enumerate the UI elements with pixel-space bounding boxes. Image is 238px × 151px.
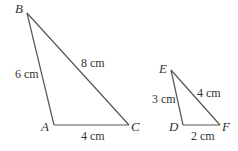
vertex-label-b: B <box>15 1 23 16</box>
side-bc <box>27 13 129 125</box>
vertex-label-a: A <box>40 119 49 134</box>
vertex-label-e: E <box>158 61 167 76</box>
triangle-abc: B A C 6 cm 8 cm 4 cm <box>15 1 140 143</box>
side-label-ab: 6 cm <box>15 67 39 81</box>
vertex-label-d: D <box>168 119 179 134</box>
vertex-label-f: F <box>221 119 231 134</box>
side-label-ac: 4 cm <box>81 129 105 143</box>
side-label-ef: 4 cm <box>197 86 221 100</box>
vertex-label-c: C <box>131 119 140 134</box>
side-label-de: 3 cm <box>152 92 176 106</box>
side-label-df: 2 cm <box>191 129 215 143</box>
similar-triangles-diagram: B A C 6 cm 8 cm 4 cm E D F 3 cm 4 cm 2 c… <box>0 0 238 151</box>
side-label-bc: 8 cm <box>81 56 105 70</box>
triangle-def: E D F 3 cm 4 cm 2 cm <box>152 61 231 143</box>
